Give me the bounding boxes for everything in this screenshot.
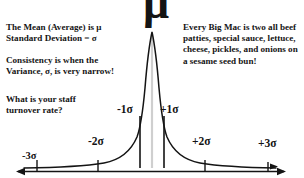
axis-label-minus-2sigma: -2σ xyxy=(88,135,104,147)
annotation-line: a sesame seed bun! xyxy=(183,56,298,67)
annotation-line: patties, special sauce, lettuce, xyxy=(183,33,298,44)
annotation-consistency: Consistency is when the Variance, σ, is … xyxy=(6,55,114,77)
annotation-big-mac: Every Big Mac is two all beef patties, s… xyxy=(183,22,298,67)
axis-label-minus-1sigma: -1σ xyxy=(117,103,133,115)
annotation-mean-definition: The Mean (Average) is μ Standard Deviati… xyxy=(6,22,101,44)
axis-label-plus-1sigma: +1σ xyxy=(160,103,179,115)
annotation-line: Variance, σ, is very narrow! xyxy=(6,66,114,77)
annotation-line: Standard Deviation = σ xyxy=(6,33,101,44)
bell-curve-diagram: μ The Mean (Average) is μ Standard Devia… xyxy=(0,0,304,178)
axis-label-plus-3sigma: +3σ xyxy=(258,137,277,149)
annotation-line: turnover rate? xyxy=(6,105,76,116)
annotation-line: cheese, pickles, and onions on xyxy=(183,44,298,55)
annotation-line: The Mean (Average) is μ xyxy=(6,22,101,33)
annotation-line: What is your staff xyxy=(6,94,76,105)
annotation-line: Every Big Mac is two all beef xyxy=(183,22,298,33)
axis-label-plus-2sigma: +2σ xyxy=(192,135,211,147)
axis-label-minus-3sigma: -3σ xyxy=(22,150,36,162)
annotation-turnover-question: What is your staff turnover rate? xyxy=(6,94,76,116)
axis-right-arrowhead xyxy=(277,168,286,175)
annotation-line: Consistency is when the xyxy=(6,55,114,66)
axis-left-arrowhead xyxy=(16,168,25,175)
